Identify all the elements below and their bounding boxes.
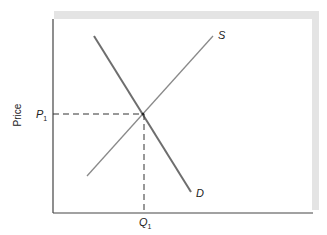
- y-axis-label: Price: [12, 103, 23, 126]
- quantity-label: Q1: [139, 216, 152, 230]
- demand-label: D: [196, 187, 204, 199]
- equilibrium-point: [142, 113, 145, 116]
- price-label: P1: [36, 108, 47, 122]
- supply-demand-diagram: Price P1 Q1 S D: [0, 0, 327, 235]
- supply-label: S: [218, 29, 226, 41]
- frame-right-band: [312, 11, 319, 210]
- frame-top-band: [54, 11, 319, 19]
